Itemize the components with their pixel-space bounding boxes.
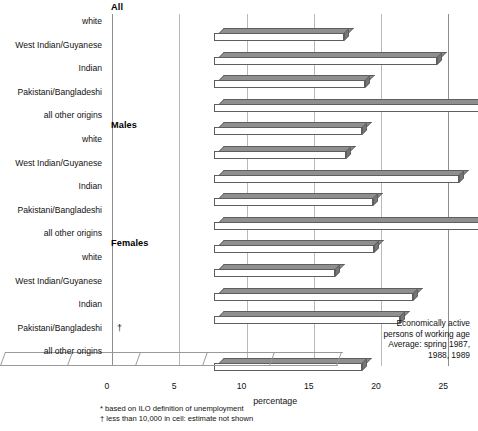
bar-side-face [362, 122, 367, 135]
footnote-ilo: * based on ILO definition of unemploymen… [100, 404, 253, 414]
category-label-white: white [0, 135, 102, 144]
bar [214, 122, 367, 135]
annotation-line-4: 1988, 1989 [338, 350, 470, 361]
bar-front-face [214, 151, 346, 159]
category-label-white: white [0, 253, 102, 262]
category-label-indian: Indian [0, 64, 102, 73]
x-tick-label-20: 20 [362, 382, 390, 391]
bar-front-face [214, 57, 437, 65]
x-axis-label: percentage [253, 396, 297, 406]
bar-front-face [214, 245, 374, 253]
annotation-note: Economically active persons of working a… [338, 318, 470, 360]
bar [214, 193, 378, 206]
category-label-white: white [0, 17, 102, 26]
x-tick-label-0: 0 [93, 382, 121, 391]
gridline-0 [112, 14, 113, 366]
x-tick-label-5: 5 [160, 382, 188, 391]
x-tick-label-25: 25 [429, 382, 457, 391]
panel-title-females: Females [111, 238, 148, 248]
axis-tick-20 [269, 352, 275, 366]
bar-front-face [214, 33, 344, 41]
category-label-west-indian-guyanese: West Indian/Guyanese [0, 159, 102, 168]
category-label-pakistani-bangladeshi: Pakistani/Bangladeshi [0, 206, 102, 215]
category-label-all-other-origins: all other origins [0, 229, 102, 238]
bar-front-face [214, 198, 373, 206]
category-label-all-other-origins: all other origins [0, 347, 102, 356]
annotation-line-2: persons of working age [338, 329, 470, 340]
gridline-5 [179, 14, 180, 366]
bar-front-face [214, 80, 365, 88]
annotation-line-3: Average: spring 1987, [338, 339, 470, 350]
bar-side-face [344, 28, 349, 41]
category-label-pakistani-bangladeshi: Pakistani/Bangladeshi [0, 88, 102, 97]
bar-front-face [214, 222, 478, 230]
suppressed-value-marker: † [117, 324, 122, 333]
annotation-line-1: Economically active [338, 318, 470, 329]
category-label-indian: Indian [0, 182, 102, 191]
bar [214, 217, 478, 230]
bar-front-face [214, 293, 413, 301]
panel-title-all: All [111, 2, 123, 12]
bar [214, 146, 351, 159]
bar [214, 264, 340, 277]
footnotes: * based on ILO definition of unemploymen… [100, 404, 253, 423]
category-label-west-indian-guyanese: West Indian/Guyanese [0, 41, 102, 50]
bar-side-face [362, 358, 367, 371]
gridline-25 [448, 14, 449, 366]
chart-container: whiteWest Indian/GuyaneseIndianPakistani… [0, 0, 478, 431]
bar-front-face [214, 269, 335, 277]
category-label-all-other-origins: all other origins [0, 111, 102, 120]
bar [214, 75, 370, 88]
axis-tick-10 [134, 352, 140, 366]
bar [214, 288, 418, 301]
plot-area [107, 14, 452, 366]
axis-floor-front-edge [0, 365, 338, 366]
category-label-west-indian-guyanese: West Indian/Guyanese [0, 277, 102, 286]
footnote-dagger: † less than 10,000 in cell: estimate not… [100, 414, 253, 424]
bar-front-face [214, 104, 478, 112]
bar-front-face [214, 175, 459, 183]
x-tick-label-10: 10 [228, 382, 256, 391]
bar [214, 170, 464, 183]
category-label-indian: Indian [0, 300, 102, 309]
bar [214, 240, 379, 253]
x-tick-label-15: 15 [295, 382, 323, 391]
bar-front-face [214, 127, 362, 135]
bar-side-face [374, 240, 379, 253]
bar [214, 52, 442, 65]
axis-tick-15 [202, 352, 208, 366]
bar [214, 99, 478, 112]
category-label-pakistani-bangladeshi: Pakistani/Bangladeshi [0, 324, 102, 333]
panel-title-males: Males [111, 120, 137, 130]
bar [214, 28, 349, 41]
